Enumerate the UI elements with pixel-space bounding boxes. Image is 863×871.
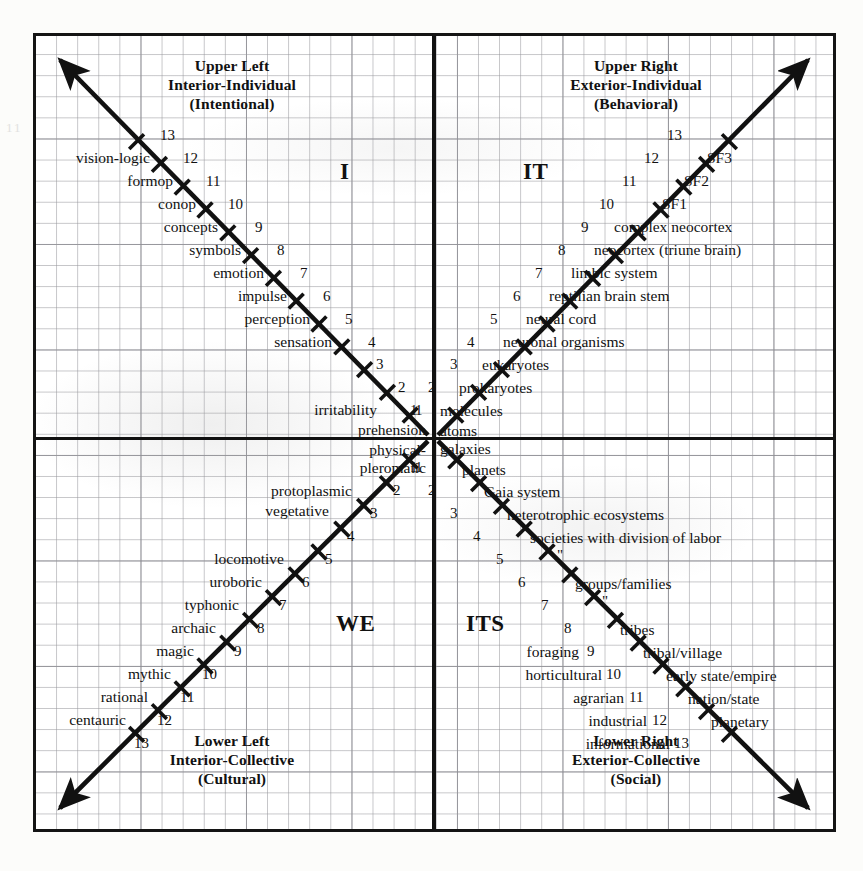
ul-term-sensation: sensation bbox=[274, 333, 332, 351]
ul-term-impulse: impulse bbox=[238, 287, 287, 305]
lr-term-heterotrophic-ecosystems: heterotrophic ecosystems bbox=[507, 506, 664, 524]
lr-term-agrarian: agrarian bbox=[573, 689, 624, 707]
ll-num-10: 10 bbox=[202, 666, 217, 683]
ur-title-3: (Behavioral) bbox=[570, 94, 701, 113]
quadrant-letter-WE: WE bbox=[336, 611, 375, 637]
ll-num-11: 11 bbox=[180, 689, 194, 706]
lr-term-gaia-system: Gaia system bbox=[484, 483, 560, 501]
ul-num-13: 13 bbox=[160, 127, 175, 144]
ur-term-sf1: SF1 bbox=[662, 195, 687, 213]
lr-term-tribal-village: tribal/village bbox=[643, 644, 722, 662]
ul-num-3: 3 bbox=[376, 356, 384, 373]
quadrant-title-upper-left: Upper Left Interior-Individual (Intentio… bbox=[168, 56, 296, 114]
ll-term-uroboric: uroboric bbox=[209, 573, 262, 591]
ll-term-typhonic: typhonic bbox=[185, 596, 239, 614]
ul-term-prehension: prehension bbox=[358, 421, 426, 439]
ur-term-complex-neocortex: complex neocortex bbox=[614, 218, 732, 236]
ul-num-2: 2 bbox=[398, 379, 406, 396]
lr-num-8: 8 bbox=[564, 620, 572, 637]
lr-num-2: 2 bbox=[428, 482, 436, 499]
upper-left-axis-arrow bbox=[60, 60, 428, 435]
ll-term-vegetative: vegetative bbox=[265, 502, 329, 520]
ul-title-2: Interior-Individual bbox=[168, 75, 296, 94]
lr-term-planetary: planetary bbox=[711, 713, 769, 731]
lr-term-informational: informational bbox=[586, 735, 670, 753]
ur-term-atoms: atoms bbox=[440, 422, 477, 440]
ll-term-mythic: mythic bbox=[128, 665, 171, 683]
ur-term-neuronal-organisms: neuronal organisms bbox=[503, 333, 625, 351]
lr-num-9: 9 bbox=[587, 643, 595, 660]
ul-term-vision-logic: vision-logic bbox=[76, 149, 150, 167]
ur-title-1: Upper Right bbox=[570, 56, 701, 75]
ul-term-symbols: symbols bbox=[189, 241, 241, 259]
ur-num-7: 7 bbox=[535, 265, 543, 282]
lr-term-galaxies: galaxies bbox=[440, 440, 491, 458]
ur-num-6: 6 bbox=[513, 288, 521, 305]
ll-num-2: 2 bbox=[393, 482, 401, 499]
ul-term-irritability: irritability bbox=[314, 401, 377, 419]
ur-num-3: 3 bbox=[450, 356, 458, 373]
ll-num-8: 8 bbox=[257, 620, 265, 637]
quadrant-letter-ITS: ITS bbox=[466, 611, 505, 637]
ll-num-7: 7 bbox=[279, 597, 287, 614]
ur-term-sf2: SF2 bbox=[684, 172, 709, 190]
lr-num-12: 12 bbox=[652, 712, 667, 729]
ur-term-neocortex: neocortex (triune brain) bbox=[594, 241, 741, 259]
lr-num-1: 1 bbox=[410, 459, 418, 476]
ll-num-9: 9 bbox=[234, 643, 242, 660]
ur-num-9: 9 bbox=[581, 219, 589, 236]
scanned-page: 11 Upper Left Interior-Individual bbox=[0, 0, 863, 871]
ur-term-eukaryotes: eukaryotes bbox=[482, 356, 549, 374]
lr-term-societies-division-labor: societies with division of labor bbox=[530, 529, 721, 547]
scan-artifact: 11 bbox=[6, 120, 23, 136]
ur-num-1: 1 bbox=[410, 402, 418, 419]
ur-num-13: 13 bbox=[667, 127, 682, 144]
ul-num-4: 4 bbox=[368, 334, 376, 351]
ll-term-centauric: centauric bbox=[69, 711, 126, 729]
lr-term-nation-state: nation/state bbox=[688, 690, 759, 708]
ul-title-1: Upper Left bbox=[168, 56, 296, 75]
quadrant-title-lower-left: Lower Left Interior-Collective (Cultural… bbox=[170, 731, 294, 789]
ll-num-6: 6 bbox=[302, 574, 310, 591]
ul-num-12: 12 bbox=[183, 150, 198, 167]
ur-num-12: 12 bbox=[644, 150, 659, 167]
ur-num-11: 11 bbox=[622, 173, 636, 190]
ll-num-12: 12 bbox=[157, 712, 172, 729]
diagram-frame: Upper Left Interior-Individual (Intentio… bbox=[33, 33, 836, 832]
ll-title-3: (Cultural) bbox=[170, 769, 294, 788]
ul-num-10: 10 bbox=[228, 196, 243, 213]
ur-term-limbic-system: limbic system bbox=[571, 264, 658, 282]
ul-term-emotion: emotion bbox=[213, 264, 264, 282]
lr-num-10: 10 bbox=[606, 666, 621, 683]
lr-num-3: 3 bbox=[450, 505, 458, 522]
ll-num-5: 5 bbox=[325, 551, 333, 568]
lr-term-ditto-5: " bbox=[557, 547, 563, 564]
ul-term-formop: formop bbox=[127, 172, 173, 190]
lr-term-foraging: foraging bbox=[526, 643, 579, 661]
lr-term-horticultural: horticultural bbox=[525, 666, 602, 684]
ur-num-8: 8 bbox=[558, 242, 566, 259]
ul-num-6: 6 bbox=[323, 288, 331, 305]
lr-term-early-state-empire: early state/empire bbox=[666, 667, 777, 685]
ll-term-protoplasmic: protoplasmic bbox=[271, 482, 352, 500]
ul-num-5: 5 bbox=[345, 311, 353, 328]
lr-title-3: (Social) bbox=[572, 769, 700, 788]
ul-num-9: 9 bbox=[255, 219, 263, 236]
lr-term-ditto-7: " bbox=[602, 593, 608, 610]
lr-num-7: 7 bbox=[541, 597, 549, 614]
ul-term-conop: conop bbox=[158, 195, 196, 213]
lr-title-2: Exterior-Collective bbox=[572, 750, 700, 769]
lr-term-groups-families: groups/families bbox=[575, 575, 671, 593]
lr-num-4: 4 bbox=[473, 528, 481, 545]
ur-term-prokaryotes: prokaryotes bbox=[459, 379, 532, 397]
ul-title-3: (Intentional) bbox=[168, 94, 296, 113]
ur-term-neural-cord: neural cord bbox=[526, 310, 596, 328]
quadrant-title-upper-right: Upper Right Exterior-Individual (Behavio… bbox=[570, 56, 701, 114]
ll-num-4: 4 bbox=[347, 528, 355, 545]
ur-num-2: 2 bbox=[428, 379, 436, 396]
ll-num-13: 13 bbox=[134, 735, 149, 752]
ul-num-11: 11 bbox=[206, 173, 220, 190]
ul-num-7: 7 bbox=[300, 265, 308, 282]
ll-title-1: Lower Left bbox=[170, 731, 294, 750]
ul-term-perception: perception bbox=[245, 310, 310, 328]
